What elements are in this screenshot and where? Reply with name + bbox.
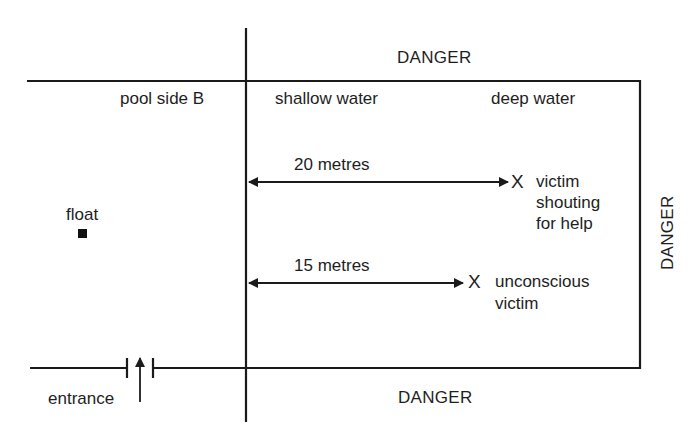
victim-2-line-2: victim (495, 294, 538, 314)
pool-diagram-lines (0, 0, 698, 440)
distance-label-15m: 15 metres (294, 256, 370, 276)
victim-marker-2: X (468, 272, 481, 292)
danger-right-label: DANGER (658, 195, 678, 270)
victim-1-line-1: victim (536, 172, 579, 192)
distance-label-20m: 20 metres (294, 155, 370, 175)
shallow-water-label: shallow water (275, 89, 378, 109)
victim-2-line-1: unconscious (495, 272, 590, 292)
victim-marker-1: X (511, 172, 524, 192)
float-marker-icon (78, 229, 87, 238)
deep-water-label: deep water (491, 89, 575, 109)
victim-1-line-3: for help (536, 214, 593, 234)
pool-side-label: pool side B (120, 89, 204, 109)
float-label: float (66, 205, 98, 225)
victim-1-line-2: shouting (536, 193, 600, 213)
danger-bottom-label: DANGER (398, 388, 473, 408)
danger-top-label: DANGER (397, 48, 472, 68)
entrance-label: entrance (48, 389, 114, 409)
